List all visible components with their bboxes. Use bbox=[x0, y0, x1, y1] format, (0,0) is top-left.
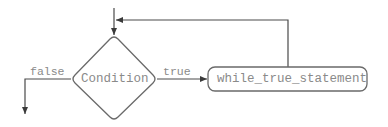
false-edge bbox=[25, 79, 71, 114]
loop-back-edge bbox=[116, 20, 288, 67]
true-edge-label: true bbox=[163, 66, 191, 78]
flowchart-svg bbox=[0, 0, 388, 127]
flowchart-canvas: Condition while_true_statement true fals… bbox=[0, 0, 388, 127]
statement-label: while_true_statement bbox=[217, 73, 367, 86]
condition-label: Condition bbox=[81, 73, 149, 86]
false-edge-label: false bbox=[30, 66, 65, 78]
